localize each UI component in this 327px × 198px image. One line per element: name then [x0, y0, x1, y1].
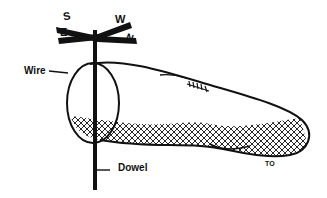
compass-west-letter: W [115, 14, 125, 25]
windsock-diagram [0, 0, 327, 198]
wire-label: Wire [24, 66, 46, 76]
to-label: TO [265, 160, 275, 167]
dowel-label: Dowel [118, 163, 147, 173]
wire-leader-line [49, 71, 68, 73]
dowel [93, 30, 97, 190]
compass-east-letter: E [60, 27, 67, 38]
sock-shading [60, 116, 312, 160]
